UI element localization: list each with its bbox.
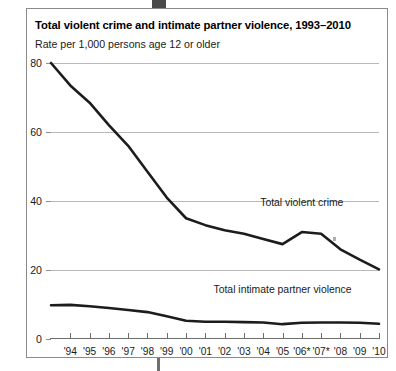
x-axis-label: '01 xyxy=(199,346,212,357)
x-axis-label: '06* xyxy=(293,346,310,357)
series-label: Total intimate partner violence xyxy=(213,284,351,295)
stray-mark xyxy=(333,237,336,241)
series-label: Total violent crime xyxy=(260,197,343,208)
x-axis-label: '08 xyxy=(334,346,347,357)
y-axis-label: 20 xyxy=(30,264,42,276)
x-axis-label: '07* xyxy=(312,346,329,357)
x-axis-label: '97 xyxy=(122,346,135,357)
line-total-intimate-partner-violence xyxy=(51,305,379,324)
x-axis-label: '95 xyxy=(83,346,96,357)
x-axis-label: '04 xyxy=(257,346,270,357)
line-total-violent-crime xyxy=(51,63,379,269)
y-axis-label: 40 xyxy=(30,195,42,207)
x-axis-label: '96 xyxy=(102,346,115,357)
x-axis-label: '09 xyxy=(353,346,366,357)
x-axis-label: '00 xyxy=(179,346,192,357)
bottom-margin-stub xyxy=(157,358,160,371)
x-axis-label: '05 xyxy=(276,346,289,357)
x-axis-label: '94 xyxy=(64,346,77,357)
chart-title: Total violent crime and intimate partner… xyxy=(35,19,351,31)
x-axis-label: '10 xyxy=(372,346,385,357)
chart-subtitle: Rate per 1,000 persons age 12 or older xyxy=(35,38,220,50)
x-axis-label: '02 xyxy=(218,346,231,357)
y-axis-label: 0 xyxy=(36,333,42,345)
x-axis-label: '99 xyxy=(160,346,173,357)
x-axis-tick xyxy=(379,333,380,338)
x-axis-label: '98 xyxy=(141,346,154,357)
y-axis-label: 60 xyxy=(30,126,42,138)
plot-area: 020406080 '94'95'96'97'98'99'00'01'02'03… xyxy=(51,63,379,339)
x-axis-label: '03 xyxy=(237,346,250,357)
figure-container: Total violent crime and intimate partner… xyxy=(26,8,388,358)
y-axis-tick xyxy=(46,339,51,340)
y-axis-label: 80 xyxy=(30,57,42,69)
